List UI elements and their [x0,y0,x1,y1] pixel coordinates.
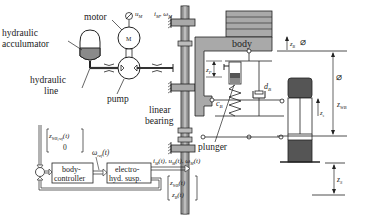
hydraulic-accumulator [80,30,100,68]
outputs-label: iM(t), uM(t), ωM(t) [153,157,201,166]
label-hydraulic-accumulator-1: hydraulic [2,28,38,38]
label-hydraulic-line-1: hydraulic [30,75,66,85]
label-pump: pump [107,94,129,104]
plunger-leader [215,85,234,142]
label-z-wb: zWB [336,100,347,110]
label-z-p: zP [205,66,212,75]
motor-leader [112,20,122,30]
body-controller-label-1: body- [62,165,81,174]
line-leader [82,68,90,88]
label-c-b: cB [216,99,223,109]
spring-icon [229,85,241,116]
origin-wb-icon: ⌀ [336,71,342,82]
diagram-svg: hydraulic acculumator hydraulic line M m… [0,0,366,218]
body-controller-label-2: controller [54,174,85,183]
origin-b-icon: ⌀ [300,36,306,47]
label-d-b: dB [264,82,271,92]
electro-hyd-label-1: electro- [115,165,140,174]
label-linear-1: linear [149,105,171,115]
label-hydraulic-line-2: line [44,86,58,96]
pump-leader [117,79,124,94]
ref-vector-top: zWB,ref(t) [48,132,70,142]
label-z-s-small: zs [319,109,325,118]
label-z-s: zS [336,175,343,185]
svg-text:iM, ωM: iM, ωM [154,10,172,19]
label-z-b: zB [289,40,296,49]
svg-text:uM: uM [135,10,143,19]
feedback-bottom: zB(t) [171,191,184,200]
label-plunger: plunger [198,142,228,152]
label-body: body [232,38,252,49]
ref-vector-bottom: 0 [63,143,67,152]
electro-hyd-label-2: hyd. susp. [109,174,141,183]
motor-symbol: M [126,36,132,42]
label-motor: motor [84,12,108,22]
wheel [280,78,320,162]
suspension-diagram: hydraulic acculumator hydraulic line M m… [0,0,366,218]
label-hydraulic-accumulator-2: acculumator [2,39,50,49]
omega-ref-label: ωref(t) [92,148,110,158]
label-linear-2: bearing [145,116,174,126]
plunger-piston [230,73,240,78]
feedback-top: zWB(t) [169,179,186,188]
summing-junction-icon [36,168,45,177]
